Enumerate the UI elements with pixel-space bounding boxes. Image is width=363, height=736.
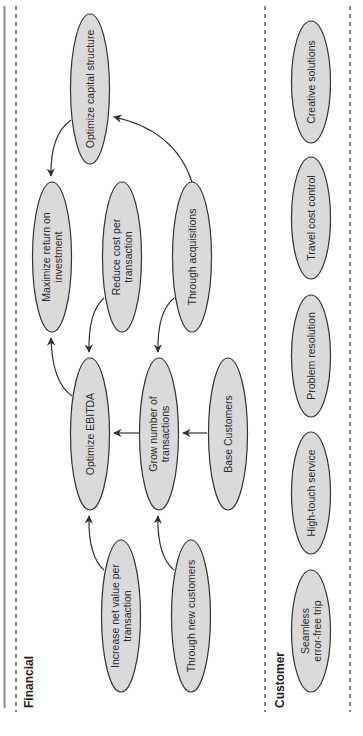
customer-section-label: Customer <box>273 652 287 708</box>
strategy-map-diagram: Financial Customer Optimize capital stru… <box>0 0 363 736</box>
svg-text:transaction: transaction <box>121 590 133 642</box>
svg-text:transactions: transactions <box>159 406 171 463</box>
node-seamless-error-free-trip: Seamless error-free trip <box>292 570 331 692</box>
edge-new-customers-to-grow <box>158 516 174 570</box>
node-high-touch-service: High-touch service <box>292 432 331 554</box>
edge-net-value-to-ebitda <box>89 516 104 570</box>
svg-text:Optimize EBITDA: Optimize EBITDA <box>84 393 96 475</box>
node-problem-resolution: Problem resolution <box>292 295 331 417</box>
svg-text:Reduce cost per: Reduce cost per <box>110 218 122 295</box>
svg-text:error-free trip: error-free trip <box>311 600 323 661</box>
svg-text:High-touch service: High-touch service <box>305 449 317 536</box>
svg-text:Optimize capital structure: Optimize capital structure <box>84 30 96 149</box>
financial-section-label: Financial <box>22 656 36 708</box>
svg-text:Customer: Customer <box>273 652 287 708</box>
edge-ebitda-to-roi <box>51 338 72 396</box>
node-base-customers: Base Customers <box>209 358 248 510</box>
edge-reduce-cost-to-ebitda <box>89 298 104 352</box>
svg-text:transaction: transaction <box>122 231 134 283</box>
svg-text:Travel cost control: Travel cost control <box>305 175 317 260</box>
svg-text:Grow number of: Grow number of <box>147 396 159 471</box>
svg-text:Maximize return on: Maximize return on <box>40 212 52 301</box>
node-maximize-return-on-investment: Maximize return on investment <box>33 182 72 332</box>
svg-text:Through acquisitions: Through acquisitions <box>186 209 198 306</box>
node-travel-cost-control: Travel cost control <box>292 157 331 279</box>
node-reduce-cost-per-transaction: Reduce cost per transaction <box>103 182 142 332</box>
node-creative-solutions: Creative solutions <box>292 21 331 143</box>
svg-text:Increase net value per: Increase net value per <box>109 564 121 668</box>
edge-acquisitions-to-grow <box>158 298 174 352</box>
svg-text:Base Customers: Base Customers <box>222 395 234 473</box>
svg-text:Creative solutions: Creative solutions <box>305 40 317 123</box>
svg-text:Seamless: Seamless <box>299 608 311 654</box>
node-through-acquisitions: Through acquisitions <box>173 182 212 332</box>
edges <box>51 117 207 570</box>
svg-text:Problem resolution: Problem resolution <box>305 312 317 400</box>
svg-text:investment: investment <box>52 232 64 283</box>
edge-acquisitions-to-capital <box>114 117 192 182</box>
svg-text:Financial: Financial <box>22 656 36 708</box>
node-through-new-customers: Through new customers <box>172 540 211 692</box>
node-optimize-ebitda: Optimize EBITDA <box>71 358 110 510</box>
node-increase-net-value-per-transaction: Increase net value per transaction <box>102 540 141 692</box>
node-optimize-capital-structure: Optimize capital structure <box>71 14 110 164</box>
edge-capital-to-roi <box>51 120 71 176</box>
svg-text:Through new customers: Through new customers <box>185 560 197 673</box>
node-grow-number-of-transactions: Grow number of transactions <box>140 358 179 510</box>
